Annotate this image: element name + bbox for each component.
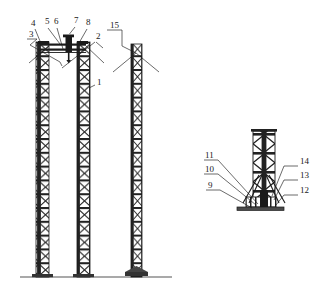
base-detail-view: [237, 129, 285, 210]
callout-15: 15: [110, 20, 120, 30]
callout-11: 11: [205, 150, 214, 160]
callout-12: 12: [300, 185, 309, 195]
callout-2: 2: [96, 31, 101, 41]
callout-13: 13: [300, 170, 310, 180]
tower-middle-base-plate: [73, 274, 94, 277]
base-plate: [237, 207, 284, 210]
callout-1: 1: [97, 77, 102, 87]
tower-left: [32, 42, 53, 277]
tower-right-base-plate: [125, 272, 148, 276]
tower-left-base-plate: [32, 274, 53, 277]
tower-right: [125, 44, 148, 277]
tower-middle: [73, 42, 94, 277]
tower-right-base-fillet: [125, 266, 148, 272]
callout-10: 10: [205, 164, 215, 174]
detail-column: [260, 190, 268, 208]
figure-page: 4 5 6 7 8 3 2 1 15: [0, 0, 322, 291]
callout-7: 7: [74, 15, 79, 25]
elevation-view: [20, 35, 172, 278]
callout-4: 4: [31, 18, 36, 28]
hoist-body: [66, 36, 73, 52]
callout-3: 3: [29, 29, 34, 39]
callout-6: 6: [54, 16, 59, 26]
callout-9: 9: [208, 180, 213, 190]
callout-5: 5: [45, 16, 50, 26]
hoist-head: [63, 35, 74, 38]
technical-drawing-canvas: 4 5 6 7 8 3 2 1 15: [0, 0, 322, 291]
callout-8: 8: [86, 17, 91, 27]
callout-14: 14: [300, 156, 310, 166]
